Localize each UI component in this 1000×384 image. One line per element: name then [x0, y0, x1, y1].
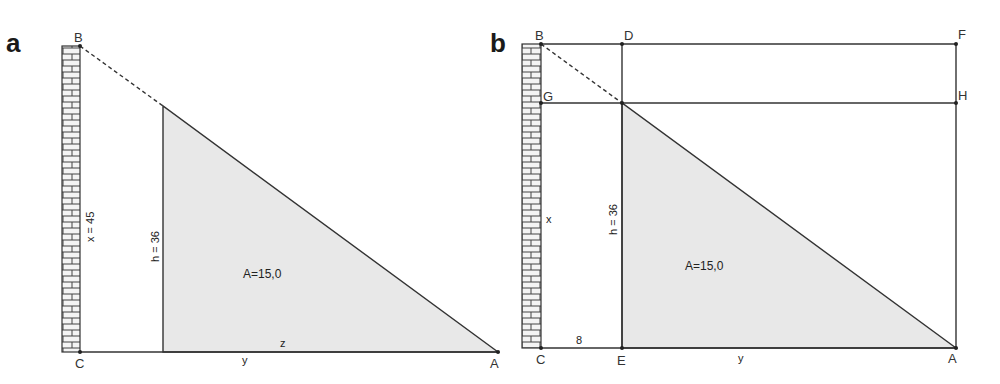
point-apex	[620, 101, 624, 105]
area-label: A=15,0	[685, 259, 724, 273]
label-c: C	[75, 356, 84, 371]
label-ce-8: 8	[576, 334, 582, 346]
point-f	[954, 42, 958, 46]
label-h: H	[958, 88, 967, 103]
panel-a: a B C A x = 45 h = 36 y z A=15,0	[6, 28, 500, 371]
point-c	[539, 346, 543, 350]
brick-wall-icon	[62, 46, 80, 352]
label-a: A	[490, 356, 499, 371]
dashed-sightline	[541, 44, 622, 103]
label-z: z	[280, 337, 286, 349]
point-e	[620, 346, 624, 350]
diagram-canvas: a B C A x = 45 h = 36 y z A=15,0 b	[0, 0, 1000, 384]
label-d: D	[624, 28, 633, 43]
label-h-36: h = 36	[607, 204, 619, 235]
label-b: B	[74, 30, 83, 45]
label-y: y	[738, 352, 744, 364]
area-label: A=15,0	[243, 267, 282, 281]
label-b: B	[535, 28, 544, 43]
label-f: F	[958, 27, 966, 42]
label-x: x	[546, 213, 552, 225]
label-e: E	[617, 353, 626, 368]
brick-wall-icon	[522, 44, 541, 348]
point-c	[78, 350, 82, 354]
shaded-triangle	[622, 103, 956, 348]
label-g: G	[543, 89, 553, 104]
panel-b-label: b	[490, 28, 506, 58]
shaded-triangle	[163, 106, 498, 352]
label-y: y	[242, 354, 248, 366]
label-a: A	[948, 351, 957, 366]
point-a	[954, 346, 958, 350]
panel-a-label: a	[6, 28, 21, 58]
dashed-sightline	[80, 46, 163, 106]
point-a	[496, 350, 500, 354]
label-c: C	[536, 352, 545, 367]
panel-b: b B D F G H C E A x h =	[490, 27, 967, 368]
label-x-45: x = 45	[84, 212, 96, 242]
label-h-36: h = 36	[149, 231, 161, 262]
